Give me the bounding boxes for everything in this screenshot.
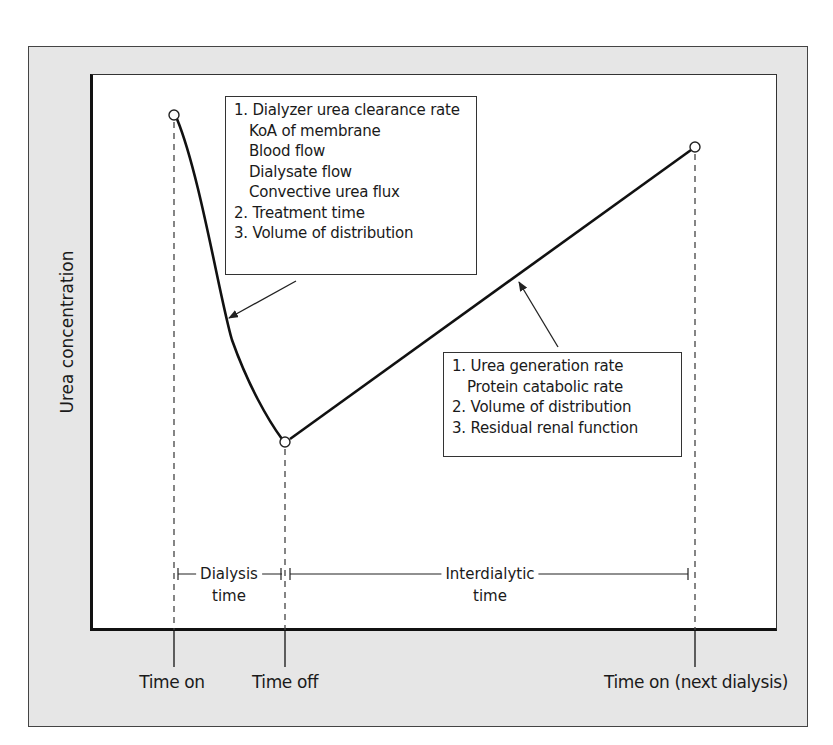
point-time-on [169, 110, 179, 120]
box-line: 2. Volume of distribution [452, 397, 673, 418]
box-line: Convective urea flux [234, 182, 468, 203]
arrow-interdialytic-annotation [519, 282, 558, 347]
x-tick-label-time-on: Time on [139, 672, 204, 692]
dialysis-interval-sublabel: time [212, 587, 246, 605]
point-time-on-next [690, 142, 700, 152]
box-line: 3. Residual renal function [452, 418, 673, 439]
dialysis-interval-label: Dialysis [196, 565, 262, 583]
box-line: Protein catabolic rate [452, 377, 673, 398]
box-line: 1. Dialyzer urea clearance rate [234, 100, 468, 121]
box-line: Dialysate flow [234, 162, 468, 183]
box-line: 2. Treatment time [234, 203, 468, 224]
arrow-dialysis-annotation [229, 281, 296, 318]
box-line: Blood flow [234, 141, 468, 162]
x-tick-label-time-off: Time off [252, 672, 318, 692]
y-axis-label: Urea concentration [57, 250, 77, 413]
point-time-off [280, 437, 290, 447]
box-line: 1. Urea generation rate [452, 356, 673, 377]
box-line: 3. Volume of distribution [234, 223, 468, 244]
interdialytic-interval-label: Interdialytic [441, 565, 538, 583]
dialysis-factors-box: 1. Dialyzer urea clearance rate KoA of m… [225, 96, 477, 275]
interdialytic-factors-box: 1. Urea generation rate Protein cataboli… [443, 352, 682, 457]
figure: Dialysis time Interdialytic time 1. Dial… [0, 0, 833, 745]
interdialytic-interval-sublabel: time [473, 587, 507, 605]
x-tick-label-time-on-next: Time on (next dialysis) [604, 672, 788, 692]
box-line: KoA of membrane [234, 121, 468, 142]
